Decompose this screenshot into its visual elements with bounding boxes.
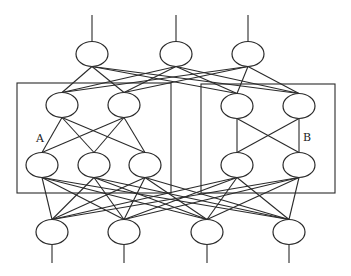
module-b-box bbox=[201, 84, 335, 193]
input-node bbox=[191, 220, 223, 245]
connection-edge bbox=[289, 178, 299, 220]
connection-edge bbox=[42, 118, 62, 153]
module-a-label: A bbox=[35, 132, 45, 145]
connection-edge bbox=[94, 118, 124, 153]
connection-edge bbox=[124, 67, 176, 93]
neural-network-diagram: A B bbox=[0, 0, 351, 276]
connection-edge bbox=[62, 118, 94, 153]
hidden2-node bbox=[46, 93, 78, 118]
connection-edge bbox=[42, 178, 52, 220]
hidden2-node bbox=[221, 94, 253, 119]
connection-edge bbox=[62, 67, 248, 93]
input-node bbox=[36, 220, 68, 245]
connection-edge bbox=[62, 118, 145, 153]
hidden1-node bbox=[78, 153, 110, 178]
output-node bbox=[232, 42, 264, 67]
module-b-label: B bbox=[303, 131, 311, 144]
input-node bbox=[273, 220, 305, 245]
hidden1-node bbox=[129, 153, 161, 178]
hidden2-node bbox=[283, 94, 315, 119]
output-node bbox=[76, 42, 108, 67]
output-node bbox=[160, 42, 192, 67]
connection-edge bbox=[42, 118, 124, 153]
input-node bbox=[108, 220, 140, 245]
hidden1-node bbox=[283, 153, 315, 178]
connection-edge bbox=[124, 118, 145, 153]
connection-edge bbox=[248, 67, 299, 94]
hidden1-node bbox=[26, 153, 58, 178]
hidden1-node bbox=[221, 153, 253, 178]
hidden2-node bbox=[108, 93, 140, 118]
